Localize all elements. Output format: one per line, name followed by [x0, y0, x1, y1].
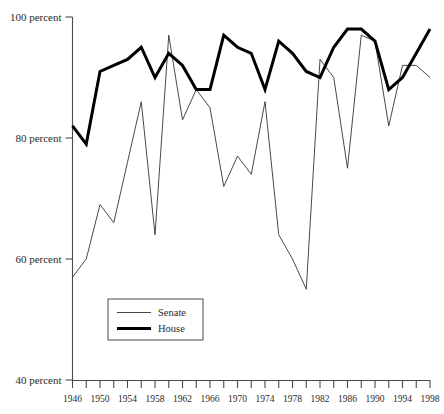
- x-tick-label-1958: 1958: [146, 394, 165, 404]
- x-tick-label-1990: 1990: [366, 394, 385, 404]
- x-tick-label-1954: 1954: [118, 394, 137, 404]
- x-tick-label-1998: 1998: [421, 394, 440, 404]
- series-line-house: [73, 29, 431, 144]
- x-tick-label-1966: 1966: [201, 394, 220, 404]
- y-axis-ticks: [66, 17, 73, 380]
- y-tick-label-40: 40 percent: [15, 374, 61, 386]
- y-tick-label-80: 80 percent: [15, 132, 61, 144]
- x-axis-ticks: [73, 380, 431, 388]
- x-axis-tick-labels: 1946195019541958196219661970197419781982…: [63, 394, 440, 404]
- x-axis: 1946195019541958196219661970197419781982…: [63, 380, 440, 404]
- y-tick-label-100: 100 percent: [10, 11, 62, 23]
- x-tick-label-1946: 1946: [63, 394, 82, 404]
- line-chart: 100 percent80 percent60 percent40 percen…: [0, 0, 444, 414]
- x-tick-label-1982: 1982: [311, 394, 330, 404]
- legend-label-senate: Senate: [158, 307, 186, 318]
- legend-border: [108, 299, 203, 340]
- data-series-group: [73, 29, 431, 289]
- x-tick-label-1950: 1950: [91, 394, 110, 404]
- x-tick-label-1978: 1978: [283, 394, 302, 404]
- chart-legend: Senate House: [108, 299, 203, 340]
- legend-label-house: House: [158, 323, 185, 334]
- x-tick-label-1970: 1970: [228, 394, 247, 404]
- y-axis-tick-labels: 100 percent80 percent60 percent40 percen…: [10, 11, 62, 386]
- y-tick-label-60: 60 percent: [15, 253, 61, 265]
- y-axis: 100 percent80 percent60 percent40 percen…: [10, 11, 73, 386]
- x-tick-label-1986: 1986: [338, 394, 357, 404]
- x-tick-label-1974: 1974: [256, 394, 275, 404]
- chart-container: 100 percent80 percent60 percent40 percen…: [0, 0, 444, 414]
- series-line-senate: [73, 35, 431, 289]
- x-tick-label-1962: 1962: [173, 394, 192, 404]
- x-tick-label-1994: 1994: [393, 394, 412, 404]
